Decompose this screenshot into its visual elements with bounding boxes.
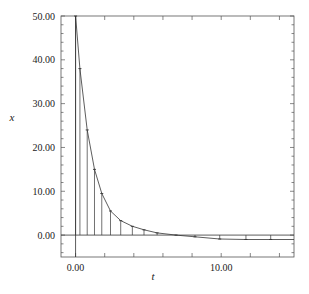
chart: 0.0010.0020.0030.0040.0050.000.0010.00 t… xyxy=(0,0,309,294)
curve-line xyxy=(76,16,294,240)
data-stems xyxy=(74,16,272,239)
y-tick-label: 20.00 xyxy=(33,142,56,153)
reference-lines xyxy=(61,16,294,257)
data-curve xyxy=(76,16,294,240)
plot-border xyxy=(61,16,294,257)
x-axis-label: t xyxy=(151,270,155,282)
axis-ticks xyxy=(61,16,294,257)
y-tick-label: 50.00 xyxy=(33,11,56,22)
y-axis-label: x xyxy=(9,111,15,123)
x-tick-label: 0.00 xyxy=(67,262,85,273)
plot-frame xyxy=(61,16,294,257)
x-tick-label: 10.00 xyxy=(210,262,233,273)
y-tick-label: 0.00 xyxy=(38,230,56,241)
y-tick-label: 40.00 xyxy=(33,54,56,65)
y-tick-label: 30.00 xyxy=(33,98,56,109)
y-tick-label: 10.00 xyxy=(33,186,56,197)
